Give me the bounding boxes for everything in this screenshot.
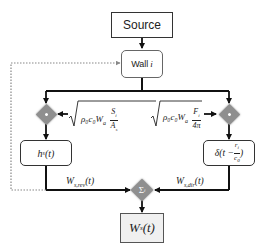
output-block: Ws(t) [120,213,164,243]
source-block: Source [111,12,173,38]
wall-label: Wall [131,59,148,69]
reverb-signal-label: Ws,rev(t) [66,176,94,188]
sum-node: Σi [131,179,154,202]
direct-signal-label: Ws,dir(t) [176,176,204,188]
reverb-filter-block: hs(t) [20,140,72,166]
direct-delay-block: δ(t − ri c0 ) [203,140,255,166]
source-label: Source [123,18,161,32]
wall-block: Wall i [121,50,163,78]
wall-index: i [150,59,153,69]
